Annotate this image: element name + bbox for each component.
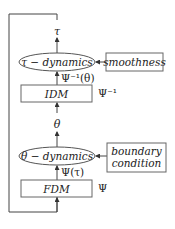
node-idm: IDM — [21, 85, 92, 102]
node-fdm: FDM — [21, 180, 92, 197]
svg-text:IDM: IDM — [44, 88, 69, 100]
edge-label-tau: τ — [54, 25, 61, 38]
node-smoothness: smoothness — [103, 53, 166, 71]
feedback-loop-diagram: τ τ − dynamics smoothness Ψ⁻¹(θ) IDM Ψ⁻¹… — [0, 0, 175, 229]
svg-text:θ − dynamics: θ − dynamics — [21, 150, 94, 162]
svg-text:smoothness: smoothness — [103, 56, 166, 68]
node-tau-dynamics: τ − dynamics — [19, 53, 95, 71]
svg-text:FDM: FDM — [42, 183, 70, 195]
edge-label-theta: θ — [54, 118, 61, 131]
edge-label-psi-inverse-theta: Ψ⁻¹(θ) — [61, 72, 94, 84]
svg-text:τ − dynamics: τ − dynamics — [21, 56, 93, 68]
svg-text:boundary: boundary — [111, 145, 163, 157]
edge-label-psi-tau: Ψ(τ) — [61, 166, 84, 178]
idm-side-label: Ψ⁻¹ — [98, 87, 117, 99]
node-theta-dynamics: θ − dynamics — [19, 147, 95, 165]
svg-text:condition: condition — [112, 157, 162, 169]
node-boundary-condition: boundary condition — [107, 143, 166, 172]
fdm-side-label: Ψ — [98, 182, 107, 194]
